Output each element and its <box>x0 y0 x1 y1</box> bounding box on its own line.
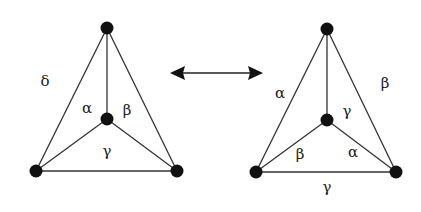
graph-transformation-diagram: δ α β γ α β γ β α γ <box>0 0 421 212</box>
left-vertex-bottom-left <box>30 165 43 178</box>
left-label-beta: β <box>123 101 132 119</box>
right-edge-top-bottom-left <box>256 29 327 172</box>
left-edge-center-bottom-right <box>107 119 177 171</box>
left-vertex-top <box>101 22 114 35</box>
left-label-gamma: γ <box>103 142 112 160</box>
arrowhead-right <box>248 66 263 80</box>
right-vertex-bottom-right <box>390 166 403 179</box>
arrowhead-left <box>170 66 185 80</box>
left-label-alpha: α <box>82 99 92 117</box>
right-label-gamma-bottom: γ <box>323 178 332 196</box>
left-edge-center-bottom-left <box>36 119 107 171</box>
left-edge-top-bottom-left <box>36 28 107 171</box>
right-edge-top-bottom-right <box>327 29 396 172</box>
right-graph: α β γ β α γ <box>250 23 403 197</box>
right-label-beta-inner: β <box>296 145 305 163</box>
left-vertex-bottom-right <box>171 165 184 178</box>
right-vertex-bottom-left <box>250 166 263 179</box>
left-graph: δ α β γ <box>30 22 184 178</box>
right-label-alpha-inner: α <box>348 143 358 161</box>
right-vertex-center <box>321 114 334 127</box>
right-vertex-top <box>321 23 334 36</box>
left-edge-top-bottom-right <box>107 28 177 171</box>
right-label-beta-outer: β <box>381 74 390 92</box>
right-label-alpha-outer: α <box>275 84 285 102</box>
right-label-gamma-inner: γ <box>343 102 352 120</box>
right-edge-center-bottom-left <box>256 120 327 172</box>
left-label-delta: δ <box>40 72 49 90</box>
left-vertex-center <box>101 113 114 126</box>
double-arrow-icon <box>170 66 263 80</box>
right-edge-center-bottom-right <box>327 120 396 172</box>
